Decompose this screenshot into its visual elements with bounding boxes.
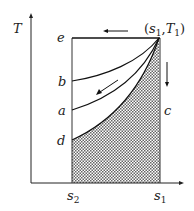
y-axis-label: T bbox=[13, 21, 23, 36]
x-axis-arrow-icon bbox=[179, 181, 184, 185]
label-b: b bbox=[58, 74, 66, 89]
label-e: e bbox=[57, 30, 65, 45]
point-label-s1-t1: (s1,T1) bbox=[144, 21, 185, 38]
arrow-diagonal-icon bbox=[96, 89, 102, 95]
y-axis-arrow-icon bbox=[29, 13, 33, 18]
ts-diagram: T e b a d c (s1,T1) s2 s1 bbox=[0, 0, 194, 211]
x-tick-s1: s1 bbox=[154, 188, 166, 205]
x-tick-s2: s2 bbox=[67, 188, 79, 205]
arrow-left-icon bbox=[103, 29, 108, 33]
arrow-down-icon bbox=[165, 82, 169, 87]
label-d: d bbox=[57, 133, 65, 148]
label-a: a bbox=[58, 103, 66, 118]
label-c: c bbox=[164, 103, 172, 118]
